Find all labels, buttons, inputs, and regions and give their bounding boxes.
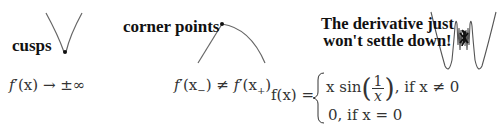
fraction-denominator: x bbox=[372, 89, 385, 103]
case1-condition: , if x ≠ 0 bbox=[395, 78, 460, 96]
right-paren: ) bbox=[384, 73, 394, 103]
piecewise-case1: x sin(1x), if x ≠ 0 bbox=[326, 73, 459, 103]
fraction-numerator: 1 bbox=[372, 74, 385, 89]
piecewise-case2: 0, if x = 0 bbox=[328, 106, 402, 124]
left-paren: ( bbox=[361, 73, 371, 103]
fraction: 1x bbox=[372, 74, 385, 103]
piecewise-brace bbox=[0, 0, 502, 126]
case1-prefix: x sin bbox=[326, 78, 361, 96]
